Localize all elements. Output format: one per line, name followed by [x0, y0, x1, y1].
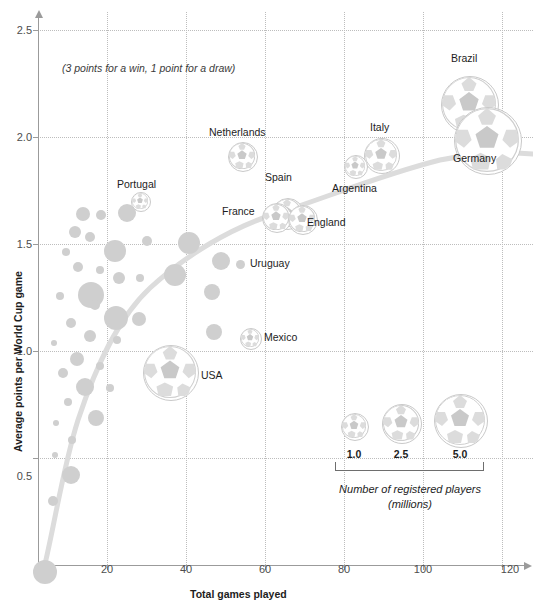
bubble-point [51, 340, 57, 346]
label-england: England [307, 216, 346, 228]
legend-value-5.0: 5.0 [440, 448, 480, 460]
label-argentina: Argentina [332, 182, 377, 194]
bubble-point [178, 232, 200, 254]
x-tick-label-60: 60 [250, 563, 280, 575]
bubble-point [106, 384, 114, 392]
bubble-point [62, 466, 80, 484]
y-tick-0.5 [33, 458, 38, 459]
bubble-point [52, 452, 58, 458]
y-axis-arrow-icon [35, 10, 43, 18]
bubble-point [76, 378, 94, 396]
label-portugal: Portugal [117, 178, 156, 190]
legend-value-2.5: 2.5 [381, 448, 421, 460]
bubble-point [76, 207, 90, 221]
bubble-point [53, 420, 59, 426]
bubble-point [33, 560, 57, 584]
legend-ball-1.0 [341, 413, 369, 441]
bubble-point [62, 248, 70, 256]
bubble-point [142, 236, 152, 246]
legend-value-1.0: 1.0 [334, 448, 374, 460]
ball-netherlands [228, 142, 258, 172]
bubble-point [96, 210, 106, 220]
y-tick-label-0.5: 0.5 [6, 470, 32, 482]
x-tick-label-20: 20 [92, 563, 122, 575]
legend-caption-line2: (millions) [330, 497, 490, 512]
label-italy: Italy [370, 121, 389, 133]
y-tick-2.0 [33, 137, 38, 138]
bubble-point [70, 352, 84, 366]
y-tick-label-1.5: 1.5 [6, 238, 32, 250]
legend-ball-5.0 [434, 394, 488, 448]
bubble-point [73, 262, 83, 272]
bubble-point [88, 410, 104, 426]
label-uruguay: Uruguay [250, 257, 290, 269]
bubble-point [64, 398, 72, 406]
x-axis-title: Total games played [190, 588, 287, 600]
y-axis-title: Average points per World Cup game [12, 271, 24, 452]
bubble-point [206, 324, 222, 340]
ball-argentina [344, 155, 368, 179]
bubble-point [164, 264, 186, 286]
y-tick-2.5 [33, 30, 38, 31]
bubble-point [113, 272, 125, 284]
label-spain: Spain [265, 171, 292, 183]
bubble-point [136, 274, 144, 282]
gridline-y-1.0 [38, 351, 533, 352]
legend-ball-2.5 [382, 404, 422, 444]
gridline-x-40 [186, 12, 187, 565]
ball-portugal [131, 192, 151, 212]
bubble-point [104, 306, 128, 330]
bubble-point [56, 292, 64, 300]
y-tick-1.5 [33, 244, 38, 245]
bubble-point [104, 240, 126, 262]
label-usa: USA [201, 369, 223, 381]
bubble-point [132, 312, 146, 326]
x-tick-label-40: 40 [171, 563, 201, 575]
bubble-point [85, 232, 95, 242]
label-brazil: Brazil [451, 52, 477, 64]
ball-italy [364, 138, 400, 174]
bubble-point [68, 436, 76, 444]
gridline-y-2.5 [38, 30, 533, 31]
bubble-point [96, 266, 104, 274]
bubble-point [84, 330, 96, 342]
x-tick-label-100: 100 [408, 563, 438, 575]
y-tick-label-2.5: 2.5 [6, 24, 32, 36]
legend-caption-line1: Number of registered players [330, 482, 490, 497]
x-axis-arrow-icon [524, 562, 532, 570]
label-mexico: Mexico [264, 331, 297, 343]
legend-bracket [335, 462, 484, 471]
y-tick-label-2.0: 2.0 [6, 131, 32, 143]
ball-germany [454, 107, 522, 175]
bubble-point [66, 318, 76, 328]
bubble-point [96, 362, 104, 370]
bubble-point [204, 284, 220, 300]
x-tick-label-120: 120 [495, 563, 525, 575]
gridline-x-20 [107, 12, 108, 565]
scoring-note: (3 points for a win, 1 point for a draw) [62, 62, 235, 74]
label-germany: Germany [453, 152, 496, 164]
bubble-point [48, 496, 58, 506]
label-france: France [222, 205, 255, 217]
gridline-x-60 [265, 12, 266, 565]
bubble-point [69, 226, 81, 238]
gridline-x-120 [502, 12, 503, 565]
bubble-point [113, 336, 121, 344]
x-tick-label-80: 80 [329, 563, 359, 575]
ball-usa [143, 345, 199, 401]
bubble-point [212, 252, 230, 270]
y-tick-1.0 [33, 351, 38, 352]
label-netherlands: Netherlands [209, 126, 266, 138]
ball-mexico [240, 328, 262, 350]
y-axis [38, 18, 39, 565]
bubble-point [58, 368, 68, 378]
bubble-uruguay [236, 260, 245, 269]
bubble-point [90, 300, 100, 310]
